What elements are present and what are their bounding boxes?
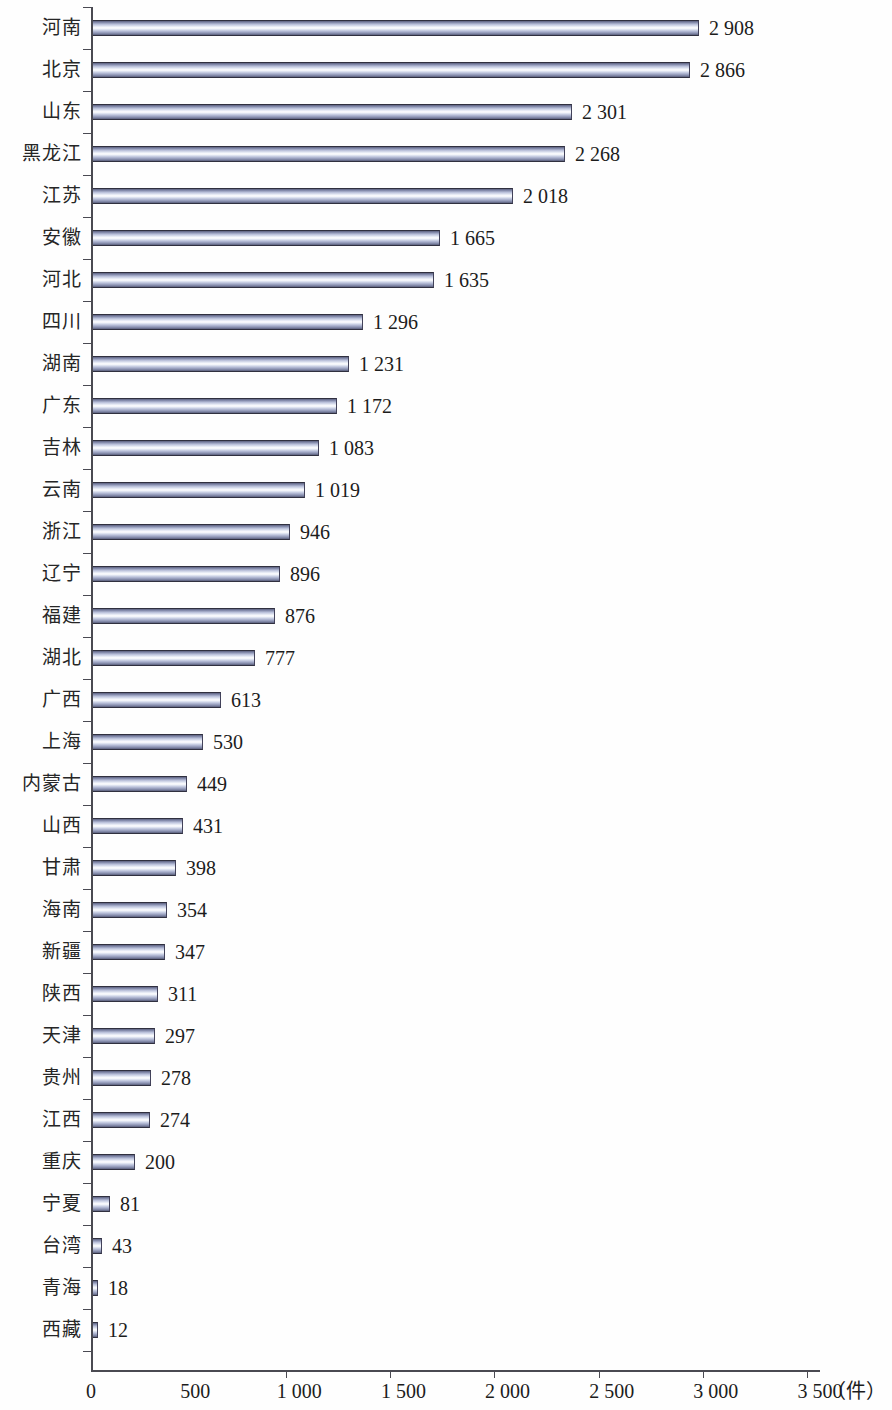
category-label-江西: 江西 <box>0 1099 82 1141</box>
bar-山西 <box>93 818 183 834</box>
bar-row: 新疆347 <box>0 931 892 973</box>
bar-fill <box>93 188 513 204</box>
value-label-青海: 18 <box>108 1280 128 1296</box>
category-label-陕西: 陕西 <box>0 973 82 1015</box>
bar-row: 河北1 635 <box>0 259 892 301</box>
bar-上海 <box>93 734 203 750</box>
bar-陕西 <box>93 986 158 1002</box>
category-label-上海: 上海 <box>0 721 82 763</box>
value-label-辽宁: 896 <box>290 566 320 582</box>
value-label-西藏: 12 <box>108 1322 128 1338</box>
bar-row: 安徽1 665 <box>0 217 892 259</box>
value-label-吉林: 1 083 <box>329 440 374 456</box>
bar-fill <box>93 818 183 834</box>
category-label-天津: 天津 <box>0 1015 82 1057</box>
x-axis-line <box>91 1370 820 1372</box>
bar-安徽 <box>93 230 440 246</box>
category-label-山西: 山西 <box>0 805 82 847</box>
bar-内蒙古 <box>93 776 187 792</box>
bar-福建 <box>93 608 275 624</box>
bar-海南 <box>93 902 167 918</box>
x-axis-tick <box>807 1370 808 1378</box>
bar-湖北 <box>93 650 255 666</box>
category-label-湖北: 湖北 <box>0 637 82 679</box>
value-label-广西: 613 <box>231 692 261 708</box>
bar-fill <box>93 692 221 708</box>
bar-广东 <box>93 398 337 414</box>
category-label-北京: 北京 <box>0 49 82 91</box>
value-label-天津: 297 <box>165 1028 195 1044</box>
bar-吉林 <box>93 440 319 456</box>
bar-fill <box>93 20 699 36</box>
value-label-重庆: 200 <box>145 1154 175 1170</box>
bar-fill <box>93 230 440 246</box>
bar-fill <box>93 1112 150 1128</box>
bar-fill <box>93 734 203 750</box>
bar-fill <box>93 608 275 624</box>
category-label-新疆: 新疆 <box>0 931 82 973</box>
bar-fill <box>93 776 187 792</box>
bar-fill <box>93 1070 151 1086</box>
bar-fill <box>93 146 565 162</box>
value-label-内蒙古: 449 <box>197 776 227 792</box>
bar-row: 青海18 <box>0 1267 892 1309</box>
category-label-甘肃: 甘肃 <box>0 847 82 889</box>
category-label-宁夏: 宁夏 <box>0 1183 82 1225</box>
bar-fill <box>93 482 305 498</box>
category-label-浙江: 浙江 <box>0 511 82 553</box>
category-label-安徽: 安徽 <box>0 217 82 259</box>
bar-row: 陕西311 <box>0 973 892 1015</box>
value-label-陕西: 311 <box>168 986 197 1002</box>
bar-row: 甘肃398 <box>0 847 892 889</box>
bar-row: 广东1 172 <box>0 385 892 427</box>
value-label-江苏: 2 018 <box>523 188 568 204</box>
bar-row: 广西613 <box>0 679 892 721</box>
value-label-福建: 876 <box>285 608 315 624</box>
value-label-浙江: 946 <box>300 524 330 540</box>
bar-row: 天津297 <box>0 1015 892 1057</box>
category-label-广东: 广东 <box>0 385 82 427</box>
category-label-湖南: 湖南 <box>0 343 82 385</box>
bar-fill <box>93 650 255 666</box>
x-axis-tick <box>599 1370 600 1378</box>
bar-fill <box>93 524 290 540</box>
category-label-海南: 海南 <box>0 889 82 931</box>
category-label-贵州: 贵州 <box>0 1057 82 1099</box>
bar-fill <box>93 1280 98 1296</box>
value-label-海南: 354 <box>177 902 207 918</box>
bar-湖南 <box>93 356 349 372</box>
bar-row: 福建876 <box>0 595 892 637</box>
value-label-宁夏: 81 <box>120 1196 140 1212</box>
bar-甘肃 <box>93 860 176 876</box>
bar-广西 <box>93 692 221 708</box>
value-label-广东: 1 172 <box>347 398 392 414</box>
category-label-辽宁: 辽宁 <box>0 553 82 595</box>
bar-fill <box>93 902 167 918</box>
category-label-黑龙江: 黑龙江 <box>0 133 82 175</box>
bar-fill <box>93 356 349 372</box>
bar-江苏 <box>93 188 513 204</box>
bar-宁夏 <box>93 1196 110 1212</box>
bar-row: 江西274 <box>0 1099 892 1141</box>
bar-row: 浙江946 <box>0 511 892 553</box>
bar-row: 湖北777 <box>0 637 892 679</box>
x-axis-tick <box>390 1370 391 1378</box>
category-label-福建: 福建 <box>0 595 82 637</box>
bar-row: 宁夏81 <box>0 1183 892 1225</box>
bar-fill <box>93 1154 135 1170</box>
bar-fill <box>93 62 690 78</box>
value-label-四川: 1 296 <box>373 314 418 330</box>
bar-row: 云南1 019 <box>0 469 892 511</box>
value-label-河南: 2 908 <box>709 20 754 36</box>
bar-fill <box>93 398 337 414</box>
category-label-台湾: 台湾 <box>0 1225 82 1267</box>
bar-重庆 <box>93 1154 135 1170</box>
bar-fill <box>93 1238 102 1254</box>
value-label-黑龙江: 2 268 <box>575 146 620 162</box>
category-label-青海: 青海 <box>0 1267 82 1309</box>
bar-fill <box>93 104 572 120</box>
bar-row: 西藏12 <box>0 1309 892 1351</box>
value-label-贵州: 278 <box>161 1070 191 1086</box>
x-axis-tick-label: 1 500 <box>381 1378 426 1404</box>
bar-fill <box>93 566 280 582</box>
